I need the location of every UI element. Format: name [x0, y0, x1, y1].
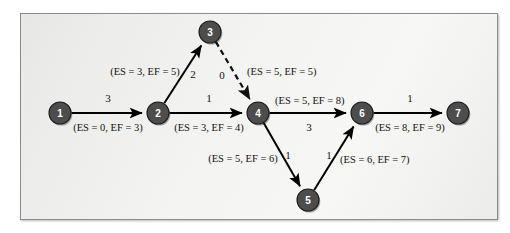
edge-time-label-2-3: (ES = 3, EF = 5): [110, 66, 180, 78]
node-number-6: 6: [359, 108, 365, 119]
node-number-3: 3: [207, 27, 213, 38]
edge-duration-4-5: 1: [285, 149, 291, 161]
node-number-7: 7: [455, 108, 461, 119]
edge-time-label-4-5: (ES = 5, EF = 6): [208, 153, 278, 165]
network-diagram-figure: 1234567 3(ES = 0, EF = 3)2(ES = 3, EF = …: [0, 0, 510, 233]
node-7[interactable]: 7: [447, 102, 470, 126]
edge-duration-1-2: 3: [105, 92, 111, 104]
edge-duration-2-3: 2: [190, 68, 196, 80]
edge-time-label-3-4: (ES = 5, EF = 5): [247, 66, 317, 78]
node-number-4: 4: [255, 108, 261, 119]
node-number-1: 1: [57, 108, 63, 119]
edge-duration-5-6: 1: [326, 149, 332, 161]
node-1[interactable]: 1: [49, 102, 72, 126]
nodes-layer: 1234567: [49, 21, 470, 213]
node-number-5: 5: [305, 195, 311, 206]
node-4[interactable]: 4: [247, 102, 270, 126]
edge-time-label-4-6: (ES = 5, EF = 8): [275, 95, 345, 107]
edge-time-label-6-7: (ES = 8, EF = 9): [375, 122, 445, 134]
edge-duration-6-7: 1: [407, 92, 413, 104]
edge-time-label-5-6: (ES = 6, EF = 7): [340, 154, 410, 166]
node-3[interactable]: 3: [199, 21, 222, 45]
node-number-2: 2: [155, 108, 161, 119]
edge-time-label-1-2: (ES = 0, EF = 3): [73, 122, 143, 134]
edge-time-label-2-4: (ES = 3, EF = 4): [174, 122, 244, 134]
edge-duration-3-4: 0: [219, 69, 225, 81]
edge-duration-2-4: 1: [206, 92, 212, 104]
edge-duration-4-6: 3: [306, 121, 312, 133]
node-5[interactable]: 5: [297, 189, 320, 213]
node-6[interactable]: 6: [351, 102, 374, 126]
network-graph: 1234567 3(ES = 0, EF = 3)2(ES = 3, EF = …: [0, 0, 510, 233]
node-2[interactable]: 2: [147, 102, 170, 126]
